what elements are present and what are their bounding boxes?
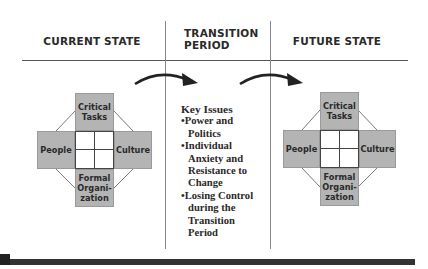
line: Transition [188, 215, 235, 226]
label: Formal [322, 172, 356, 182]
box-people: People [283, 130, 320, 168]
key-issue-item: •IndividualAnxiety andResistance toChang… [181, 140, 271, 190]
label: zation [322, 192, 356, 202]
key-issues: Key Issues •Power andPolitics •Individua… [181, 103, 271, 239]
box-culture: Culture [359, 130, 396, 168]
line: Period [188, 227, 218, 238]
line: Power and [185, 115, 233, 126]
line: Politics [188, 128, 221, 139]
line: during the [188, 202, 235, 213]
center-cell [320, 148, 340, 168]
line: Individual [185, 140, 232, 151]
center-cell [339, 148, 359, 168]
box-formal-organization: FormalOrgani-zation [320, 168, 359, 206]
label: People [286, 144, 317, 154]
label: Critical [323, 101, 356, 111]
label: Tasks [323, 111, 356, 121]
key-issue-item: •Losing Controlduring theTransitionPerio… [181, 190, 271, 240]
line: Change [188, 177, 223, 188]
line: Losing Control [185, 190, 253, 201]
box-critical-tasks: CriticalTasks [320, 92, 359, 130]
label: Organi- [322, 182, 356, 192]
bottom-corner-block [0, 254, 10, 265]
key-issue-item: •Power andPolitics [181, 115, 271, 140]
key-issues-title: Key Issues [181, 103, 271, 115]
line: Resistance to [188, 165, 247, 176]
label: Culture [361, 144, 395, 154]
line: Anxiety and [188, 153, 243, 164]
center-cell [339, 130, 359, 149]
bottom-rule [0, 259, 415, 265]
center-cell [320, 130, 340, 149]
